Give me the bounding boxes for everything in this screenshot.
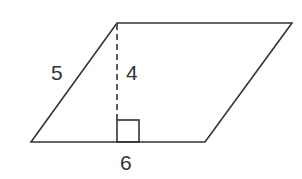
height-label: 4 (126, 62, 138, 83)
parallelogram-diagram: 5 4 6 (0, 0, 302, 179)
base-length-label: 6 (120, 152, 132, 173)
right-angle-marker (117, 120, 139, 142)
parallelogram-outline (31, 23, 292, 142)
diagram-graphic (0, 0, 302, 179)
side-length-label: 5 (51, 62, 63, 83)
